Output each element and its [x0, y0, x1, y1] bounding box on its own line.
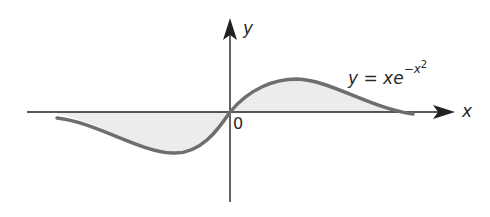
x-axis-label: x	[462, 101, 472, 121]
equation-exponent: −x	[404, 62, 421, 76]
equation-power: 2	[421, 59, 427, 70]
equation-base: y = xe	[348, 68, 404, 88]
origin-label: 0	[233, 114, 243, 133]
equation-label: y = xe−x2	[348, 63, 427, 88]
y-axis-label: y	[243, 18, 253, 38]
